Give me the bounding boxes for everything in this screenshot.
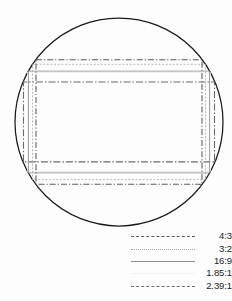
diagram-canvas: 4:3 3:2 16:9 1.85:1 2.39:1	[0, 0, 232, 301]
legend-item-2-39-1[interactable]: 2.39:1	[126, 280, 232, 292]
legend-line-sample-3-2-icon	[131, 244, 195, 254]
legend-item-4-3[interactable]: 4:3	[126, 230, 232, 242]
legend-label-16-9: 16:9	[198, 256, 232, 266]
legend-item-1-85-1[interactable]: 1.85:1	[126, 267, 232, 279]
legend-line-sample-2-39-1-icon	[131, 281, 195, 291]
aspect-rect-16-9	[29, 71, 210, 173]
aspect-ratio-legend: 4:3 3:2 16:9 1.85:1 2.39:1	[126, 230, 232, 294]
aspect-rect-1-85-1	[28, 73, 211, 172]
legend-label-3-2: 3:2	[198, 244, 232, 254]
legend-item-16-9[interactable]: 16:9	[126, 255, 232, 267]
image-circle	[15, 18, 223, 226]
legend-label-4-3: 4:3	[198, 231, 232, 241]
legend-line-sample-16-9-icon	[131, 256, 195, 266]
legend-line-sample-1-85-1-icon	[131, 268, 195, 278]
legend-label-2-39-1: 2.39:1	[198, 281, 232, 291]
legend-label-1-85-1: 1.85:1	[198, 268, 232, 278]
aspect-rect-2-39-1	[24, 82, 215, 162]
legend-item-3-2[interactable]: 3:2	[126, 242, 232, 254]
aspect-rect-4-3	[36, 60, 202, 185]
legend-line-sample-4-3-icon	[131, 231, 195, 241]
